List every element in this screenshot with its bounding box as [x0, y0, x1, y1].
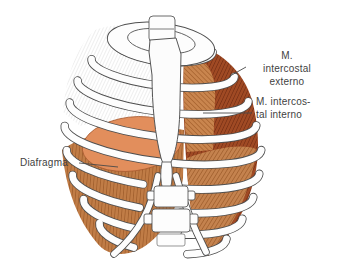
label-diafragma: Diafragma: [20, 156, 90, 169]
anatomy-figure: M. intercostal externo M. intercos- tal …: [0, 0, 337, 273]
label-m-intercostal-externo: M. intercostal externo: [250, 49, 324, 88]
ribcage-illustration: [0, 0, 337, 273]
label-m-intercostal-interno: M. intercos- tal interno: [256, 95, 336, 121]
